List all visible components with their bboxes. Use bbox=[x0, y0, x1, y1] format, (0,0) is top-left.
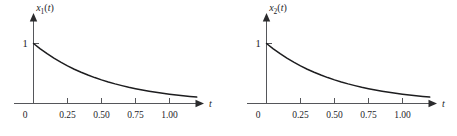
y-axis-arrowhead bbox=[263, 13, 270, 22]
x-tick-label-0.75: 0.75 bbox=[360, 110, 377, 120]
origin-label: 0 bbox=[256, 110, 261, 120]
decay-curve-x2 bbox=[267, 44, 430, 98]
x-tick-label-0.50: 0.50 bbox=[326, 110, 343, 120]
x-tick-label-0.50: 0.50 bbox=[93, 110, 110, 120]
y-axis-title: x2(t) bbox=[268, 2, 287, 16]
x-axis-arrowhead bbox=[196, 100, 205, 107]
chart-panel-x1: x1(t) t 1 0 0.25 0.50 0.75 1.00 bbox=[0, 0, 228, 136]
chart-svg-x2: x2(t) t 1 0 0.25 0.50 0.75 1.00 bbox=[229, 0, 457, 136]
y-axis-arrowhead bbox=[30, 13, 37, 22]
x-axis-title: t bbox=[442, 98, 445, 109]
x-axis-arrowhead bbox=[429, 100, 438, 107]
origin-label: 0 bbox=[23, 110, 28, 120]
x-tick-label-0.25: 0.25 bbox=[292, 110, 309, 120]
y-axis-title: x1(t) bbox=[35, 2, 54, 16]
x-tick-label-1.00: 1.00 bbox=[394, 110, 411, 120]
figure-container: x1(t) t 1 0 0.25 0.50 0.75 1.00 x2(t) t … bbox=[0, 0, 457, 136]
decay-curve-x1 bbox=[34, 44, 197, 98]
y-unit-label: 1 bbox=[255, 38, 260, 49]
x-axis-title: t bbox=[209, 98, 212, 109]
x-tick-label-0.75: 0.75 bbox=[127, 110, 144, 120]
x-tick-label-1.00: 1.00 bbox=[161, 110, 178, 120]
chart-panel-x2: x2(t) t 1 0 0.25 0.50 0.75 1.00 bbox=[229, 0, 457, 136]
y-unit-label: 1 bbox=[22, 38, 27, 49]
chart-svg-x1: x1(t) t 1 0 0.25 0.50 0.75 1.00 bbox=[0, 0, 228, 136]
x-tick-label-0.25: 0.25 bbox=[59, 110, 76, 120]
